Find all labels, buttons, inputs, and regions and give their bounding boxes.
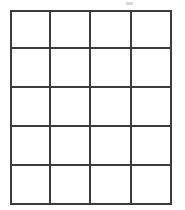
grid-cell-r4-c3[interactable]: [91, 127, 132, 166]
grid-cell-r2-c3[interactable]: [91, 49, 132, 88]
grid-cell-r1-c4[interactable]: [132, 10, 173, 49]
grid-cell-r2-c1[interactable]: [10, 49, 51, 88]
grid-cell-r5-c3[interactable]: [91, 166, 132, 205]
grid-cell-r1-c1[interactable]: [10, 10, 51, 49]
grid-table[interactable]: [10, 10, 172, 205]
grid-cell-r2-c2[interactable]: [51, 49, 92, 88]
grid-cell-r3-c1[interactable]: [10, 88, 51, 127]
grid-cell-r1-c2[interactable]: [51, 10, 92, 49]
grid-cell-r5-c4[interactable]: [132, 166, 173, 205]
grid-cell-r5-c1[interactable]: [10, 166, 51, 205]
grid-cell-r3-c2[interactable]: [51, 88, 92, 127]
grid-cell-r4-c2[interactable]: [51, 127, 92, 166]
scan-smudge-artifact: [126, 2, 133, 5]
grid-cell-r2-c4[interactable]: [132, 49, 173, 88]
grid-cell-r5-c2[interactable]: [51, 166, 92, 205]
grid-cell-r3-c3[interactable]: [91, 88, 132, 127]
grid-cell-r4-c4[interactable]: [132, 127, 173, 166]
grid-cell-r1-c3[interactable]: [91, 10, 132, 49]
grid-cell-r3-c4[interactable]: [132, 88, 173, 127]
grid-cell-r4-c1[interactable]: [10, 127, 51, 166]
page-canvas: [0, 0, 185, 210]
